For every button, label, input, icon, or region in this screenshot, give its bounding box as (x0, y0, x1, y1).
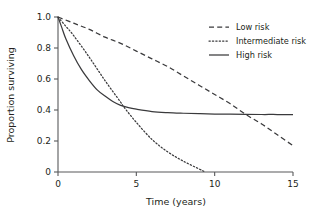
y-tick-label: 0.4 (37, 105, 52, 115)
y-tick-label: 0.6 (37, 74, 52, 84)
legend-label-high-risk: High risk (236, 50, 272, 60)
x-tick-label: 15 (287, 179, 298, 189)
survival-curve-figure: 00.20.40.60.81.0051015 Low riskIntermedi… (0, 0, 316, 214)
legend-label-intermediate-risk: Intermediate risk (236, 36, 306, 46)
y-tick-label: 0 (45, 167, 51, 177)
chart-legend: Low riskIntermediate riskHigh risk (209, 22, 306, 60)
y-axis-title: Proportion surviving (5, 47, 16, 143)
x-axis-title: Time (years) (145, 196, 206, 207)
y-tick-label: 0.8 (37, 43, 52, 53)
curve-intermediate-risk (58, 17, 205, 172)
chart-canvas: 00.20.40.60.81.0051015 Low riskIntermedi… (0, 0, 316, 214)
x-tick-label: 5 (133, 179, 139, 189)
y-tick-label: 1.0 (37, 12, 52, 22)
x-tick-label: 0 (55, 179, 61, 189)
legend-label-low-risk: Low risk (236, 22, 270, 32)
y-tick-label: 0.2 (37, 136, 51, 146)
x-tick-label: 10 (209, 179, 221, 189)
